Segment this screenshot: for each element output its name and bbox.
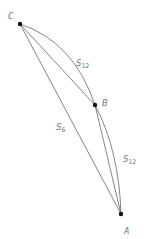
label-s6-sub: 6 [61,126,65,134]
label-a: A [123,226,129,236]
label-b: B [102,98,108,108]
label-s12-top: S12 [76,58,89,70]
point-b [93,103,97,107]
label-s12-right-sub: 12 [128,158,136,166]
point-c [18,22,22,26]
point-a [119,212,123,216]
label-s6: S6 [56,122,65,134]
label-c: C [8,11,14,21]
chord-b-a [95,105,121,214]
label-s12-top-sub: 12 [81,62,89,70]
geometry-diagram: C B A S12 S6 S12 [0,0,147,239]
segment-c-a [20,24,121,214]
label-s12-right: S12 [123,154,136,166]
